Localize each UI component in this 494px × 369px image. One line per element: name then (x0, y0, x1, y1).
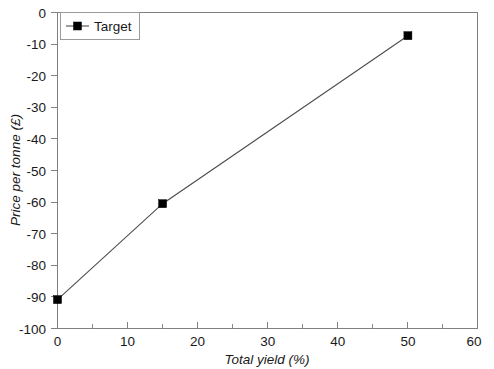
y-tick-label: -50 (26, 164, 46, 179)
y-tick-label: -40 (26, 132, 46, 147)
x-axis-title: Total yield (%) (224, 352, 309, 367)
x-tick-label: 20 (190, 334, 205, 349)
y-tick-label: -60 (26, 195, 46, 210)
series-target (54, 32, 412, 304)
y-axis-ticks: 0 -10 -20 -30 -40 -50 -60 -70 -80 -90 -1… (19, 6, 58, 337)
y-tick-label: -100 (19, 322, 46, 337)
data-point-marker (159, 200, 167, 208)
x-tick-label: 30 (260, 334, 275, 349)
x-tick-label: 0 (54, 334, 62, 349)
y-tick-label: -10 (26, 37, 46, 52)
x-tick-label: 50 (400, 334, 415, 349)
y-tick-label: -90 (26, 290, 46, 305)
line-chart-canvas: 0 -10 -20 -30 -40 -50 -60 -70 -80 -90 -1… (0, 0, 494, 369)
y-tick-label: -70 (26, 227, 46, 242)
chart-figure: 0 -10 -20 -30 -40 -50 -60 -70 -80 -90 -1… (0, 0, 494, 369)
data-point-marker (54, 296, 62, 304)
y-tick-label: -80 (26, 258, 46, 273)
y-tick-label: 0 (38, 6, 46, 21)
x-axis-ticks: 0 10 20 30 40 50 60 (54, 322, 482, 349)
series-target-line (58, 36, 408, 300)
x-tick-label: 40 (330, 334, 345, 349)
chart-legend: Target (61, 13, 140, 40)
legend-swatch-marker (74, 22, 82, 30)
x-tick-label: 60 (466, 334, 481, 349)
plot-frame (58, 12, 479, 329)
y-tick-label: -20 (26, 69, 46, 84)
x-tick-label: 10 (120, 334, 135, 349)
y-axis-title: Price per tonne (£) (8, 114, 23, 226)
data-point-marker (404, 32, 412, 40)
legend-entry-label: Target (94, 19, 132, 34)
y-tick-label: -30 (26, 100, 46, 115)
